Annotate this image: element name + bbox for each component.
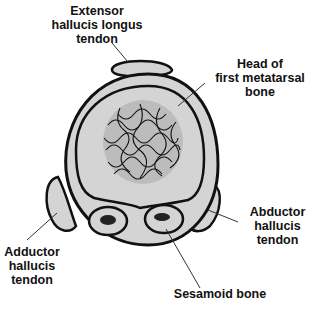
label-sesamoid-bone: Sesamoid bone [165, 287, 275, 301]
label-extensor-tendon: Extensor hallucis longus tendon [22, 4, 172, 46]
label-adductor-tendon: Adductor hallucis tendon [0, 245, 64, 287]
label-metatarsal-head: Head of first metatarsal bone [205, 57, 315, 99]
cancellous-bone-texture [103, 100, 183, 184]
label-abductor-tendon: Abductor hallucis tendon [240, 205, 315, 247]
